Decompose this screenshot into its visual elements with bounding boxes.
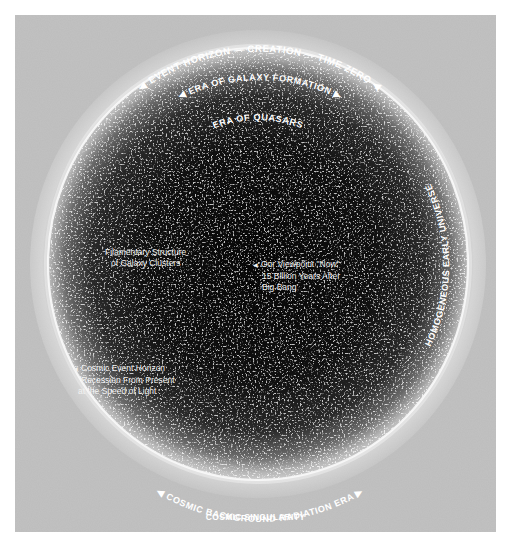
viewpoint-annotation: Our Viewpoint "Now" 15 Billion Years Aft… (253, 259, 340, 293)
cosmic-event-horizon-annotation: Cosmic Event Horizon Recession From Pres… (73, 363, 175, 397)
diagram-panel: ◀ EVENT HORIZON — CREATION — TIME ZERO ◀… (15, 15, 496, 532)
diagram-canvas: ◀ EVENT HORIZON — CREATION — TIME ZERO ◀… (0, 0, 510, 549)
horizon-arrow-icon: Cosmic Event Horizon (73, 363, 175, 375)
filamentary-structure-annotation: Filamentary Structure of Galaxy Clusters (105, 247, 186, 269)
cosmic-singularity-label: COSMIC SINGULARITY (15, 512, 496, 522)
viewpoint-arrow-icon: Our Viewpoint "Now" (253, 259, 340, 271)
